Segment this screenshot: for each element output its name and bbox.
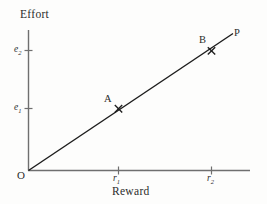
y-axis-title: Effort	[20, 9, 49, 21]
y-tick-label-e1: e1	[14, 103, 21, 114]
x-tick-label-r2: r2	[207, 174, 214, 185]
origin-label: O	[17, 170, 25, 181]
data-point-label-B: B	[199, 35, 206, 46]
effort-reward-chart: Effort Reward O e1 e2 r1 r2 A B P	[0, 0, 267, 204]
y-tick-label-e2-sub: 2	[18, 49, 21, 56]
x-tick-label-r2-sub: 2	[211, 178, 214, 185]
annotation-label-P: P	[234, 28, 240, 39]
x-tick-label-r1-sub: 1	[117, 178, 120, 185]
y-tick-label-e1-sub: 1	[18, 107, 21, 114]
x-axis-title: Reward	[112, 186, 150, 198]
y-tick-label-e2: e2	[14, 45, 21, 56]
data-point-label-A: A	[104, 94, 112, 105]
x-tick-label-r1: r1	[113, 174, 120, 185]
plot-area	[0, 0, 267, 204]
data-line-effort-reward	[29, 34, 234, 171]
